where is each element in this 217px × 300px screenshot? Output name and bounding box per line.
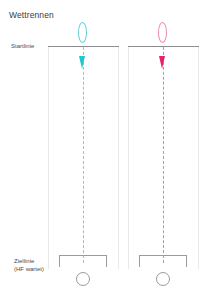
race-diagram-canvas: Wettrennen Startlinie Ziellinie (HF wart… [0, 0, 217, 300]
lane-1-rail-right [118, 47, 119, 269]
lane-1-track [48, 47, 119, 269]
finish-line-label-line1: Ziellinie [14, 258, 44, 266]
lane-1-rail-left [48, 47, 49, 269]
lane-1-runner-oval-icon [78, 22, 87, 43]
lane-2-finish-gate [139, 255, 187, 267]
page-title: Wettrennen [9, 10, 54, 20]
lane-2-runner-oval-icon [158, 22, 167, 43]
lane-1-center-line [83, 47, 84, 263]
lane-2-center-line [163, 47, 164, 263]
lane-2-pointer-stem [159, 56, 165, 69]
lane-1-goal-circle [76, 272, 90, 286]
lane-2-rail-left [128, 47, 129, 269]
lane-1-pointer-stem [79, 56, 85, 69]
lane-1-finish-gate [59, 255, 107, 267]
finish-line-label-line2: (HF wartet) [14, 266, 44, 274]
lane-2-track [128, 47, 199, 269]
finish-line-label: Ziellinie (HF wartet) [14, 258, 44, 273]
lane-2-goal-circle [156, 272, 170, 286]
lane-2-position-pointer-icon [159, 56, 166, 69]
start-line-label: Startlinie [11, 43, 34, 51]
lane-1-position-pointer-icon [79, 56, 86, 69]
lane-2-rail-right [198, 47, 199, 269]
